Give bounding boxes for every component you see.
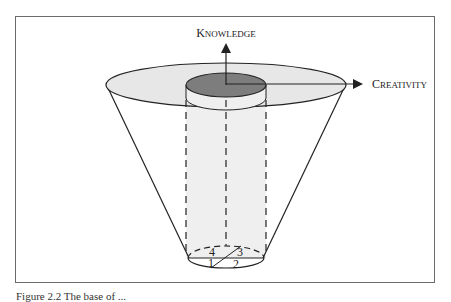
cone-left-side [108, 88, 189, 258]
quadrant-2-label: 2 [233, 257, 239, 271]
figure-caption: Figure 2.2 The base of ... [16, 290, 126, 302]
bottom-ellipse-front [188, 258, 264, 268]
cone-right-side [263, 88, 344, 258]
creativity-axis-label: CREATIVITY [372, 77, 428, 91]
knowledge-axis-label: KNOWLEDGE [196, 26, 256, 40]
quadrant-1-label: 1 [208, 256, 214, 270]
